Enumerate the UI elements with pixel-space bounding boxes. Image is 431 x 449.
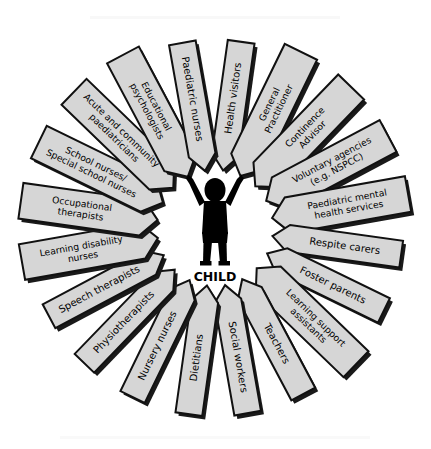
child-services-wheel-diagram: Health visitorsGeneralPractitionerContin… <box>0 0 431 449</box>
child-center-label: CHILD <box>194 269 237 284</box>
radial-arrow-wheel: Health visitorsGeneralPractitionerContin… <box>0 0 431 449</box>
